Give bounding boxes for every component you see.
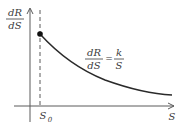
equation-operator: = [105,54,113,64]
diagram: dR dS dR dS = k S S S 0 [0,0,184,133]
equation-rhs-denominator: S [116,60,123,71]
equation: dR dS = k S [85,47,124,71]
y-label-numerator: dR [8,7,22,18]
equation-lhs-denominator: dS [87,60,100,71]
decay-curve [40,34,172,95]
s0-label-base: S [40,110,47,121]
s0-label: S 0 [40,110,53,124]
y-axis-label: dR dS [6,7,24,31]
equation-lhs-numerator: dR [87,47,101,58]
equation-rhs-numerator: k [116,47,122,58]
s0-label-subscript: 0 [48,116,53,124]
start-point-dot [37,31,43,37]
x-axis-label: S [169,111,176,122]
y-label-denominator: dS [8,20,21,31]
